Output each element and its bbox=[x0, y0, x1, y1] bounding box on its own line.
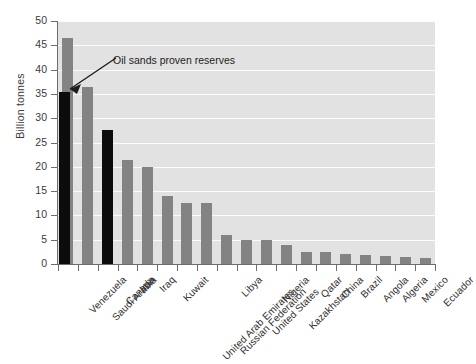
x-axis-label-china: China bbox=[339, 274, 366, 301]
y-axis-tick-label: 0 bbox=[5, 257, 47, 269]
bar-china bbox=[320, 252, 331, 264]
y-axis-tick-label: 10 bbox=[5, 208, 47, 220]
bar-united-arab-emirates bbox=[181, 203, 192, 264]
annotation-label: Oil sands proven reserves bbox=[113, 54, 235, 66]
y-axis-tick bbox=[51, 70, 57, 71]
x-axis-tick bbox=[395, 265, 396, 271]
bar-iran bbox=[122, 160, 133, 265]
bar-nigeria bbox=[261, 240, 272, 264]
bar-overlay-oil-sands bbox=[59, 92, 70, 265]
y-axis-tick-label: 25 bbox=[5, 136, 47, 148]
x-axis-tick bbox=[415, 265, 416, 271]
x-axis-tick bbox=[58, 265, 59, 271]
y-axis-tick bbox=[51, 215, 57, 216]
bar-qatar bbox=[301, 252, 312, 264]
x-axis-tick bbox=[356, 265, 357, 271]
y-axis-tick-label: 40 bbox=[5, 63, 47, 75]
gridline bbox=[58, 45, 435, 46]
bar-mexico bbox=[400, 257, 411, 264]
y-axis-tick bbox=[51, 118, 57, 119]
gridline bbox=[58, 215, 435, 216]
y-axis-tick-label: 35 bbox=[5, 87, 47, 99]
gridline bbox=[58, 21, 435, 22]
x-axis-tick bbox=[217, 265, 218, 271]
bar-iraq bbox=[142, 167, 153, 264]
y-axis-tick bbox=[51, 191, 57, 192]
bar-brazil bbox=[340, 254, 351, 264]
y-axis-tick bbox=[51, 264, 57, 265]
gridline bbox=[58, 167, 435, 168]
y-axis-tick-label: 5 bbox=[5, 233, 47, 245]
x-axis-tick bbox=[137, 265, 138, 271]
x-axis-tick bbox=[316, 265, 317, 271]
x-axis-label-iraq: Iraq bbox=[157, 274, 177, 294]
x-axis-tick bbox=[98, 265, 99, 271]
y-axis-tick bbox=[51, 45, 57, 46]
x-axis-tick bbox=[256, 265, 257, 271]
y-axis-tick-label: 50 bbox=[5, 14, 47, 26]
x-axis-tick bbox=[276, 265, 277, 271]
y-axis-tick bbox=[51, 240, 57, 241]
x-axis-label-kuwait: Kuwait bbox=[181, 274, 210, 303]
bar-saudi-arabia bbox=[82, 87, 93, 264]
x-axis-tick bbox=[157, 265, 158, 271]
x-axis-tick bbox=[435, 265, 436, 271]
bar-ecuador bbox=[420, 258, 431, 264]
bar-canada bbox=[102, 130, 113, 264]
x-axis-tick bbox=[78, 265, 79, 271]
gridline bbox=[58, 143, 435, 144]
bar-algeria bbox=[380, 256, 391, 264]
x-axis-tick bbox=[237, 265, 238, 271]
x-axis-tick bbox=[197, 265, 198, 271]
x-axis-tick bbox=[336, 265, 337, 271]
bar-united-states bbox=[241, 240, 252, 264]
y-axis-tick-label: 15 bbox=[5, 184, 47, 196]
bar-libya bbox=[221, 235, 232, 264]
y-axis-tick-label: 30 bbox=[5, 111, 47, 123]
x-axis-tick bbox=[118, 265, 119, 271]
gridline bbox=[58, 191, 435, 192]
y-axis-tick-label: 20 bbox=[5, 160, 47, 172]
y-axis-tick-label: 45 bbox=[5, 38, 47, 50]
y-axis-tick bbox=[51, 21, 57, 22]
x-axis-label-libya: Libya bbox=[239, 274, 264, 299]
annotation-arrow-icon bbox=[60, 56, 120, 96]
x-axis-tick bbox=[296, 265, 297, 271]
x-axis-line bbox=[57, 264, 436, 265]
bar-kazakhstan bbox=[281, 245, 292, 264]
bar-kuwait bbox=[162, 196, 173, 264]
bar-angola bbox=[360, 255, 371, 264]
bar-russian-federation bbox=[201, 203, 212, 264]
gridline bbox=[58, 118, 435, 119]
y-axis-tick bbox=[51, 167, 57, 168]
y-axis-tick bbox=[51, 94, 57, 95]
y-axis-tick bbox=[51, 143, 57, 144]
x-axis-tick bbox=[177, 265, 178, 271]
x-axis-tick bbox=[376, 265, 377, 271]
